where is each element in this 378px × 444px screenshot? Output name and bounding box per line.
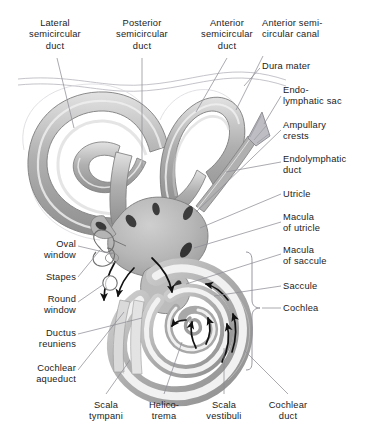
leader-round-window	[78, 284, 104, 302]
label-dura-mater: Dura mater	[262, 61, 372, 72]
leader-cochlear-duct	[244, 350, 288, 394]
dura-mater-lines	[18, 72, 286, 91]
label-macula-of-saccule: Macula of saccule	[283, 245, 377, 268]
label-oval-window: Oval window	[8, 239, 76, 262]
label-ductus-reuniens: Ductus reuniens	[8, 328, 76, 351]
helicotrema-shape	[186, 318, 201, 334]
label-utricle: Utricle	[283, 189, 377, 200]
label-saccule: Saccule	[283, 281, 377, 292]
label-lateral-semicircular-duct: Lateral semicircular duct	[12, 18, 98, 52]
label-round-window: Round window	[8, 294, 76, 317]
label-cochlear-duct: Cochlear duct	[257, 400, 319, 423]
inner-ear-diagram: Lateral semicircular ductPosterior semic…	[0, 0, 378, 444]
label-macula-of-utricle: Macula of utricle	[283, 212, 377, 235]
label-helicotrema: Helico- trema	[137, 400, 191, 423]
label-cochlear-aqueduct: Cochlear aqueduct	[2, 363, 76, 386]
label-scala-vestibuli: Scala vestibuli	[194, 400, 254, 423]
label-cochlea: Cochlea	[283, 303, 377, 314]
label-endolymphatic-duct: Endolymphatic duct	[283, 154, 377, 177]
label-posterior-semicircular-duct: Posterior semicircular duct	[99, 18, 185, 52]
leader-dura-mater	[244, 68, 260, 86]
label-endolymphatic-sac: Endo- lymphatic sac	[283, 85, 377, 108]
label-stapes: Stapes	[8, 272, 76, 283]
leader-endolymphatic-sac	[264, 96, 281, 124]
label-ampullary-crests: Ampullary crests	[283, 120, 377, 143]
leader-stapes	[78, 250, 100, 277]
leader-anterior-semicircular-canal	[236, 56, 263, 110]
label-anterior-semicircular-canal: Anterior semi- circular canal	[262, 18, 366, 41]
round-window-shape	[103, 276, 117, 290]
label-scala-tympani: Scala tympani	[78, 400, 134, 423]
endolymphatic-sac-shape	[248, 112, 270, 146]
label-anterior-semicircular-duct: Anterior semicircular duct	[186, 18, 268, 52]
